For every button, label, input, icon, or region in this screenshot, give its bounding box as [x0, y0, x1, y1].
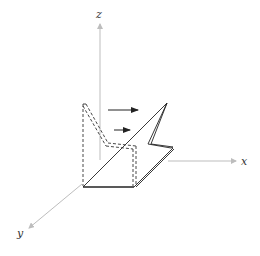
flow-arrows	[108, 110, 138, 130]
z-axis-label: z	[95, 8, 102, 21]
original-plate-outline	[83, 104, 136, 186]
axes: z x y	[16, 8, 248, 240]
y-axis-label: y	[16, 227, 24, 240]
x-axis-label: x	[241, 155, 248, 168]
y-axis	[29, 184, 82, 228]
diagram-canvas: z x y	[0, 0, 260, 256]
